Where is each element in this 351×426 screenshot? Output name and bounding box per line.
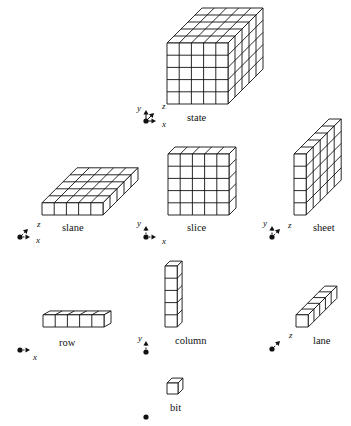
axis-y-column: y <box>138 334 142 343</box>
axis-z-sheet: z <box>288 221 292 230</box>
axis-y-sheet: y <box>263 219 267 228</box>
label-bit: bit <box>170 403 181 414</box>
slane-plate <box>42 168 138 215</box>
axis-x-slane: x <box>36 236 40 245</box>
label-column: column <box>175 336 207 347</box>
bit-cube <box>167 378 183 394</box>
column-bar <box>165 261 182 327</box>
label-slice: slice <box>187 223 206 234</box>
label-row: row <box>59 338 75 349</box>
lane-bar <box>296 286 337 327</box>
label-lane: lane <box>313 336 331 347</box>
axes-column <box>143 341 148 355</box>
axes-bit <box>143 414 148 419</box>
keccak-state-diagram: state slane slice sheet row column lane … <box>0 0 351 426</box>
axis-z-slane: z <box>37 220 41 229</box>
axes-slice <box>143 226 156 240</box>
label-state: state <box>187 113 206 124</box>
label-sheet: sheet <box>313 223 335 234</box>
diagram-drawing <box>0 0 351 426</box>
label-slane: slane <box>62 223 84 234</box>
axes-sheet <box>269 226 280 240</box>
row-bar <box>43 311 111 327</box>
axes-row <box>17 347 30 352</box>
axes-slane <box>17 229 30 240</box>
axis-z-lane: z <box>289 331 293 340</box>
axis-y-state: y <box>137 104 141 113</box>
axes-state <box>143 110 156 124</box>
slice-plane <box>168 147 236 215</box>
axis-z-state: z <box>162 102 166 111</box>
state-cube <box>167 8 263 104</box>
sheet-plane <box>294 119 341 215</box>
axes-lane <box>269 341 280 352</box>
axis-x-row: x <box>33 353 37 362</box>
axis-y-slice: y <box>137 219 141 228</box>
axis-x-slice: x <box>162 237 166 246</box>
axis-x-state: x <box>162 120 166 129</box>
